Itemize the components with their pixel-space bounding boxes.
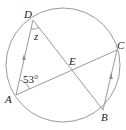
angle-arc-D — [31, 27, 39, 29]
parallel-arrow-icon — [109, 73, 113, 79]
point-label-C: C — [117, 39, 125, 51]
point-label-D: D — [23, 8, 32, 20]
diagram-canvas: D A C B E z 53° — [0, 0, 126, 130]
angle-label-53: 53° — [23, 73, 38, 85]
point-label-B: B — [101, 111, 108, 123]
point-label-E: E — [68, 55, 76, 67]
circle-geometry-figure: D A C B E z 53° — [0, 0, 126, 130]
chord-DB — [33, 20, 103, 110]
chord-BC — [103, 50, 117, 110]
angle-label-z: z — [33, 30, 39, 42]
point-label-A: A — [4, 93, 12, 105]
